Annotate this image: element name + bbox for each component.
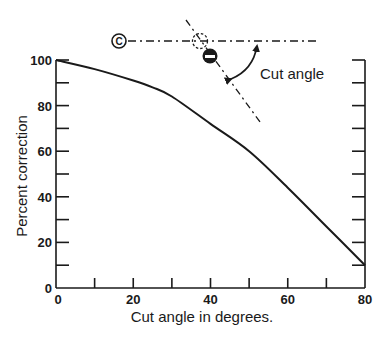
x-tick-label: 80 bbox=[358, 292, 372, 307]
object-ball-path bbox=[186, 20, 260, 122]
y-tick-label: 100 bbox=[30, 53, 52, 68]
x-tick-label: 40 bbox=[203, 292, 217, 307]
x-tick-label: 20 bbox=[126, 292, 140, 307]
x-tick-label: 0 bbox=[54, 292, 61, 307]
y-tick-label: 60 bbox=[38, 144, 52, 159]
y-tick-label: 20 bbox=[38, 235, 52, 250]
y-axis-label: Percent correction bbox=[13, 115, 30, 237]
cue-ball-label: C bbox=[115, 36, 122, 47]
axes: 020406080020406080100 bbox=[30, 53, 372, 307]
y-tick-label: 80 bbox=[38, 99, 52, 114]
cut-angle-label: Cut angle bbox=[260, 65, 324, 82]
axis-ticks bbox=[56, 60, 365, 288]
axis-tick-labels: 020406080020406080100 bbox=[30, 53, 372, 307]
y-tick-label: 0 bbox=[45, 281, 52, 296]
x-tick-label: 60 bbox=[281, 292, 295, 307]
percent-correction-curve bbox=[56, 60, 365, 265]
chart: C Cut angle 020406080020406080100 Cut an… bbox=[0, 0, 388, 342]
cut-angle-diagram: C Cut angle bbox=[112, 20, 324, 122]
x-axis-label: Cut angle in degrees. bbox=[131, 308, 274, 325]
object-ball-icon bbox=[203, 49, 218, 64]
cue-ball-icon: C bbox=[112, 34, 126, 48]
y-tick-label: 40 bbox=[38, 190, 52, 205]
cut-angle-arrow-icon bbox=[231, 46, 257, 79]
